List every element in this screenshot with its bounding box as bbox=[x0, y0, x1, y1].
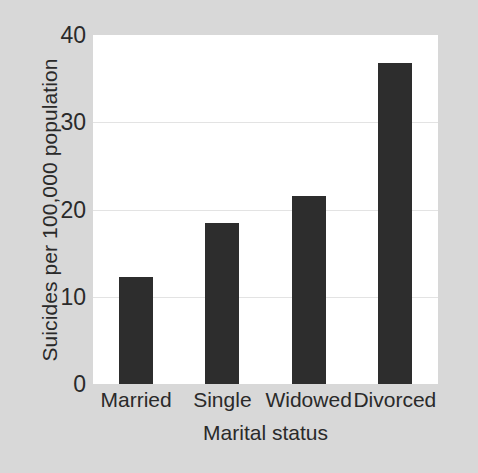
bar[interactable] bbox=[205, 223, 239, 384]
y-tick-label: 40 bbox=[38, 24, 86, 47]
bar[interactable] bbox=[292, 196, 326, 384]
y-axis-tick-labels: 010203040 bbox=[38, 0, 86, 473]
y-tick-label: 10 bbox=[38, 286, 86, 309]
x-tick-label: Single bbox=[193, 388, 251, 412]
bar-slot bbox=[266, 35, 352, 384]
bar-slot bbox=[179, 35, 265, 384]
x-tick-label: Widowed bbox=[265, 388, 351, 412]
plot-area bbox=[93, 35, 438, 384]
y-tick-label: 20 bbox=[38, 199, 86, 222]
y-tick-label: 0 bbox=[38, 373, 86, 396]
x-tick-label: Married bbox=[101, 388, 172, 412]
bar[interactable] bbox=[119, 277, 153, 384]
bar-series bbox=[93, 35, 438, 384]
x-axis-tick-labels: MarriedSingleWidowedDivorced bbox=[93, 388, 438, 418]
bar-slot bbox=[93, 35, 179, 384]
bar-chart-figure: Suicides per 100,000 population 01020304… bbox=[0, 0, 478, 473]
bar-slot bbox=[352, 35, 438, 384]
bar[interactable] bbox=[378, 63, 412, 384]
x-tick-label: Divorced bbox=[353, 388, 436, 412]
x-axis-title: Marital status bbox=[93, 421, 438, 445]
y-tick-label: 30 bbox=[38, 111, 86, 134]
